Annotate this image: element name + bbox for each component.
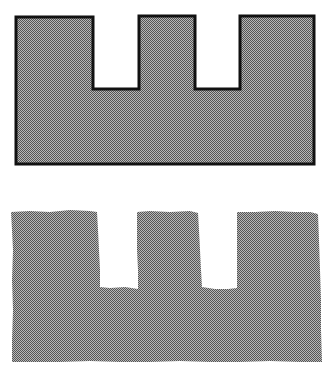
figure-canvas [0,0,332,375]
outlined-crenellated-shape [16,16,314,164]
torn-crenellated-shape [11,210,322,362]
outlined-shape-fill [16,16,314,164]
torn-shape-fill [11,210,322,362]
